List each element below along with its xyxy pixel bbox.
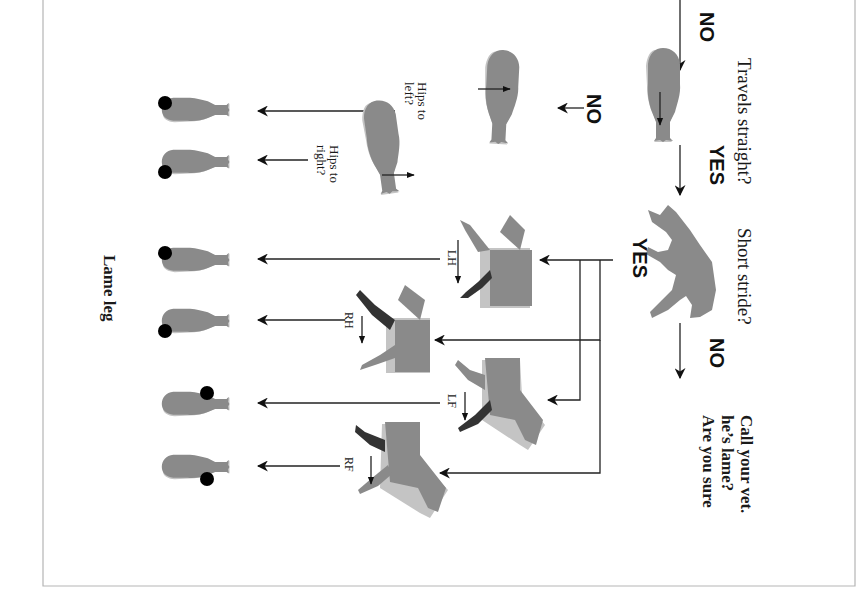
diagram-frame [43, 0, 855, 586]
leg-label-lf: LF [445, 394, 459, 408]
result-horse-hips-right [158, 150, 229, 179]
horse-rf [355, 422, 448, 518]
lame-leg-dot [158, 324, 172, 338]
horse-top-view-straight [646, 48, 680, 142]
branch-lf [548, 260, 580, 400]
horse-lf [455, 358, 545, 450]
straight-no-label: NO [583, 94, 605, 124]
stride-no-label: NO [706, 338, 728, 368]
horse-hips-left [481, 49, 520, 145]
lame-leg-dot [200, 472, 214, 486]
lame-leg-label: Lame leg [100, 255, 119, 322]
lameness-flowchart: NO Travels straight? NO Hips to left? Hi… [0, 0, 863, 614]
result-horse-lh [158, 246, 229, 272]
straight-yes-label: YES [706, 145, 728, 185]
lame-leg-dot [158, 246, 172, 260]
result-horse-rh [158, 309, 229, 338]
leg-label-lh: LH [445, 250, 459, 266]
leg-label-rf: RF [342, 457, 356, 472]
lame-leg-dot [158, 96, 172, 110]
lame-leg-dot [158, 165, 172, 179]
horse-lh [460, 215, 532, 308]
result-horse-hips-left [158, 96, 229, 122]
result-horse-rf [162, 455, 230, 486]
lame-leg-dot [200, 386, 214, 400]
stride-yes-label: YES [629, 238, 651, 278]
question-short-stride: Short stride? [734, 228, 755, 325]
horse-side-view-stride [646, 205, 716, 318]
horse-rh [356, 285, 430, 373]
hips-right-label: Hips to right? [314, 145, 342, 186]
conclusion-text: Are you sure he’s lame? Call your vet. [699, 415, 756, 513]
hips-left-label: Hips to left? [402, 82, 430, 123]
horse-hips-right [360, 98, 407, 196]
entry-no-label: NO [696, 12, 718, 42]
result-horse-lf [162, 386, 230, 416]
question-travels-straight: Travels straight? [734, 58, 755, 184]
